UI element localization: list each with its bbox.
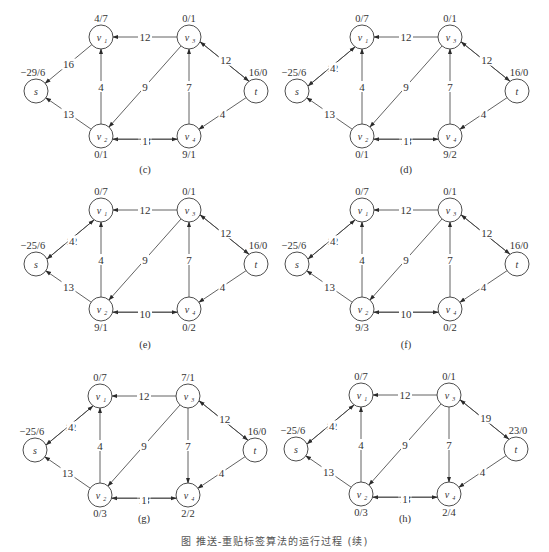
edges: 1612413978124131 (45, 31, 249, 147)
edge-capacity-label: 4 (480, 466, 486, 478)
edge-s-to-v1: 4 (307, 405, 354, 444)
edge-capacity-label: 12 (140, 204, 151, 216)
node-name: v (184, 391, 189, 402)
edge-capacity-label: 7 (446, 439, 452, 451)
edge-t-to-v3: 19 (460, 400, 509, 439)
edge-s-to-v1: 4 (308, 47, 355, 86)
panel-caption: (f) (401, 339, 412, 351)
edge-capacity-label: 12 (400, 389, 411, 401)
node-excess-height-label: 16/0 (249, 67, 268, 78)
node-t: t23/0 (504, 425, 528, 461)
node-excess-height-label: 0/1 (443, 13, 456, 24)
edge-t-to-v3: 12 (200, 42, 249, 81)
node-name: t (255, 259, 258, 270)
node-v2: v20/1 (350, 124, 374, 160)
node-name: v (445, 489, 450, 500)
node-name-subscript: 4 (452, 495, 455, 501)
node-excess-height-label: 0/1 (355, 149, 368, 160)
panel-caption: (h) (399, 513, 412, 525)
node-excess-height-label: 0/3 (354, 507, 367, 518)
node-excess-height-label: 0/7 (354, 371, 367, 382)
node-excess-height-label: 16/0 (249, 240, 268, 251)
node-v2: v20/3 (349, 482, 373, 518)
edge-v3-to-v1: 12 (374, 204, 439, 216)
node-v4: v42/2 (176, 483, 200, 519)
edge-v2-to-s: 13 (306, 456, 352, 488)
node-name: s (295, 86, 299, 97)
node-excess-height-label: 0/3 (93, 508, 106, 519)
node-v2: v20/3 (88, 483, 112, 519)
edge-capacity-label: 9 (141, 440, 147, 452)
edge-s-to-v1: 4 (46, 406, 93, 445)
node-v3: v30/1 (177, 186, 201, 222)
edge-capacity-label: 9 (142, 254, 148, 266)
node-v3: v30/1 (177, 13, 201, 49)
edge-v3-to-v2: 9 (109, 219, 182, 301)
node-s: s−25/6 (282, 240, 309, 276)
node-name: v (358, 32, 363, 43)
edge-capacity-label: 12 (401, 204, 412, 216)
node-excess-height-label: 2/4 (442, 507, 456, 518)
node-excess-height-label: 0/1 (442, 371, 455, 382)
node-name-subscript: 1 (104, 211, 107, 217)
node-v1: v10/7 (350, 186, 374, 222)
node-name: s (33, 445, 37, 456)
node-v4: v40/2 (438, 297, 462, 333)
edge-v4-to-v3: 7 (185, 49, 193, 125)
edge-v3-to-v4: 7 (445, 407, 453, 483)
node-name-subscript: 3 (191, 38, 195, 44)
panel-caption: (c) (139, 164, 151, 176)
node-name-subscript: 1 (365, 38, 368, 44)
edge-s-to-v1: 4 (308, 220, 355, 259)
node-excess-height-label: 9/2 (443, 149, 456, 160)
node-excess-height-label: 0/7 (94, 186, 107, 197)
edge-capacity-label: 4 (98, 81, 104, 93)
node-name: v (97, 131, 102, 142)
edge-v2-to-s: 13 (307, 271, 353, 303)
edge-capacity-label: 4 (359, 81, 365, 93)
node-excess-height-label: −25/6 (281, 425, 306, 436)
node-name-subscript: 2 (365, 137, 368, 143)
node-v4: v42/4 (437, 482, 461, 518)
edge-capacity-label: 4 (97, 440, 103, 452)
node-t: t16/0 (505, 67, 529, 103)
node-s: s−25/6 (282, 67, 309, 103)
edge-capacity-label: 13 (63, 281, 75, 293)
edge-v2-to-v1: 4 (97, 49, 105, 125)
panel-caption: (g) (138, 513, 151, 525)
node-excess-height-label: −25/6 (282, 240, 307, 251)
node-excess-height-label: −25/6 (20, 426, 45, 437)
node-excess-height-label: 0/7 (355, 186, 368, 197)
edge-v2-to-v4: 10 (374, 308, 439, 320)
node-excess-height-label: 0/2 (182, 322, 195, 333)
node-t: t16/0 (244, 67, 268, 103)
node-name: s (295, 259, 299, 270)
edge-v4-to-v3: 7 (446, 222, 454, 298)
panel-h: 12412413971194131s−25/6v10/7v20/3v30/1v4… (281, 371, 528, 525)
node-t: t16/0 (243, 426, 267, 462)
edge-v2-to-v4: 1 (373, 493, 438, 505)
node-name-subscript: 3 (190, 397, 194, 403)
node-s: s−25/6 (20, 426, 47, 462)
node-v3: v30/1 (438, 13, 462, 49)
edge-capacity-label: 12 (401, 31, 412, 43)
edge-capacity-label: 4 (330, 62, 336, 74)
node-excess-height-label: 0/7 (355, 13, 368, 24)
node-name: v (446, 304, 451, 315)
edge-v4-to-v3: 7 (446, 49, 454, 125)
edge-v2-to-s: 13 (46, 98, 92, 130)
edge-v2-to-v4: 1 (374, 135, 439, 147)
node-excess-height-label: 0/1 (94, 149, 107, 160)
node-name: v (445, 390, 450, 401)
edge-capacity-label: 4 (220, 281, 226, 293)
figure-caption: 图 推送-重贴标签算法的运行过程 (续) (0, 533, 549, 548)
node-name: v (185, 131, 190, 142)
node-name-subscript: 3 (191, 211, 195, 217)
edge-capacity-label: 4 (481, 281, 487, 293)
edges: 12412413978124410 (307, 204, 510, 320)
node-name-subscript: 4 (191, 496, 194, 502)
edge-v2-to-v1: 4 (358, 49, 366, 125)
edges: 12412413971194131 (306, 389, 509, 505)
node-name-subscript: 1 (364, 396, 367, 402)
edge-capacity-label: 12 (220, 227, 231, 239)
